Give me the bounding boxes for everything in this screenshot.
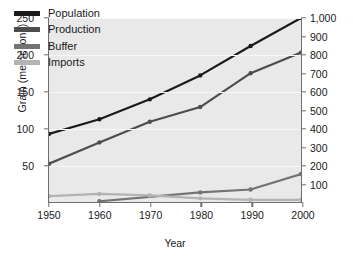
x-tick-label: 1990	[241, 202, 264, 221]
y-tick-label-left: 150	[0, 86, 39, 98]
y-tick-mark-left	[44, 91, 49, 92]
y-tick-label-left: 50	[0, 160, 39, 172]
y-tick-label-right: 300	[301, 142, 328, 154]
chart-legend: PopulationProductionBufferImports	[14, 5, 101, 71]
x-tick-label: 1960	[88, 202, 111, 221]
y-tick-label-right: 600	[301, 86, 328, 98]
y-tick-label-right: 700	[301, 68, 328, 80]
series-point	[198, 196, 202, 200]
gridline	[49, 129, 301, 130]
legend-item[interactable]: Imports	[14, 55, 101, 72]
legend-item[interactable]: Population	[14, 5, 101, 22]
gridline	[49, 166, 301, 167]
legend-label: Population	[48, 8, 100, 19]
series-point	[248, 44, 252, 48]
legend-swatch	[14, 60, 40, 65]
y-tick-label-right: 400	[301, 123, 328, 135]
legend-swatch	[14, 11, 40, 16]
x-tick-label: 1970	[139, 202, 162, 221]
legend-label: Imports	[48, 57, 85, 68]
y-tick-label-right: 900	[301, 31, 328, 43]
series-point	[148, 97, 152, 101]
y-tick-label-right: 1,000	[301, 12, 336, 24]
series-point	[248, 71, 252, 75]
x-tick-label: 2000	[291, 202, 314, 221]
legend-swatch	[14, 27, 40, 32]
y-tick-label-right: 800	[301, 49, 328, 61]
series-point	[49, 194, 51, 198]
y-tick-label-right: 500	[301, 105, 328, 117]
y-tick-mark-left	[44, 128, 49, 129]
y-tick-mark-left	[44, 165, 49, 166]
x-axis-title: Year	[48, 237, 302, 249]
legend-swatch	[14, 44, 40, 49]
series-point	[198, 73, 202, 77]
series-point	[97, 140, 101, 144]
series-point	[97, 117, 101, 121]
series-point	[97, 192, 101, 196]
series-point	[198, 105, 202, 109]
series-point	[148, 120, 152, 124]
legend-item[interactable]: Buffer	[14, 38, 101, 55]
chart-container: Grain (metric tons) Population (millions…	[0, 0, 353, 263]
legend-item[interactable]: Production	[14, 22, 101, 39]
legend-label: Production	[48, 24, 101, 35]
legend-label: Buffer	[48, 41, 77, 52]
x-tick-label: 1980	[190, 202, 213, 221]
series-point	[198, 190, 202, 194]
y-tick-label-right: 200	[301, 160, 328, 172]
series-point	[248, 187, 252, 191]
y-tick-label-left: 100	[0, 123, 39, 135]
gridline	[49, 92, 301, 93]
series-point	[148, 193, 152, 197]
x-tick-label: 1950	[37, 202, 60, 221]
y-tick-label-right: 100	[301, 179, 328, 191]
